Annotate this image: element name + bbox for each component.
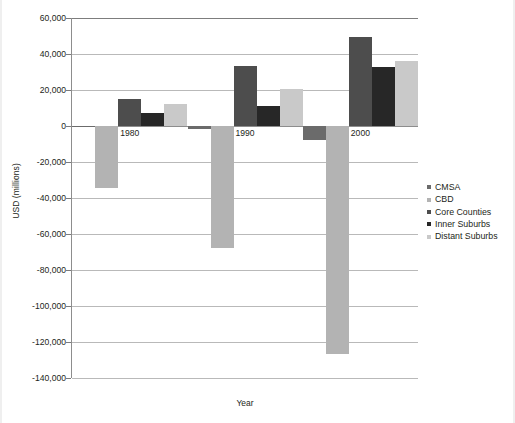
bar <box>188 126 211 129</box>
y-axis-tick-label: -100,000 <box>6 302 66 311</box>
gridline <box>72 270 418 271</box>
y-axis-tick-mark <box>66 378 71 379</box>
y-axis-tick-label: -120,000 <box>6 338 66 347</box>
bar <box>95 126 118 188</box>
bar <box>349 37 372 126</box>
bar-chart: USD (millions) 60,00040,00020,0000-20,00… <box>0 0 515 423</box>
bar <box>72 126 95 127</box>
bar <box>164 104 187 126</box>
y-axis-tick-label: 40,000 <box>6 50 66 59</box>
legend: CMSACBDCore CountiesInner SuburbsDistant… <box>427 181 513 243</box>
x-axis-category-label: 2000 <box>351 129 370 138</box>
y-axis-tick-label: -20,000 <box>6 158 66 167</box>
legend-swatch-icon <box>427 235 431 239</box>
legend-item[interactable]: Distant Suburbs <box>427 231 513 243</box>
gridline <box>72 306 418 307</box>
legend-item[interactable]: Inner Suburbs <box>427 218 513 230</box>
bar <box>395 61 418 126</box>
bar <box>372 67 395 126</box>
x-axis-title: Year <box>72 398 418 408</box>
legend-item-label: Core Counties <box>435 208 491 217</box>
legend-swatch-icon <box>427 198 431 202</box>
legend-swatch-icon <box>427 222 431 226</box>
gridline <box>72 342 418 343</box>
y-axis-tick-labels: 60,00040,00020,0000-20,000-40,000-60,000… <box>0 0 66 423</box>
y-axis-tick-label: 20,000 <box>6 86 66 95</box>
bar <box>257 106 280 126</box>
bar <box>141 113 164 126</box>
gridline <box>72 126 418 127</box>
legend-swatch-icon <box>427 210 431 214</box>
y-axis-tick-label: -60,000 <box>6 230 66 239</box>
legend-item-label: Distant Suburbs <box>435 232 498 241</box>
legend-item[interactable]: CMSA <box>427 181 513 193</box>
bar <box>234 66 257 126</box>
legend-item-label: Inner Suburbs <box>435 220 490 229</box>
x-axis-category-label: 1980 <box>120 129 139 138</box>
gridline <box>72 234 418 235</box>
legend-item[interactable]: Core Counties <box>427 206 513 218</box>
gridline <box>72 162 418 163</box>
legend-item-label: CBD <box>435 195 454 204</box>
y-axis-tick-label: -140,000 <box>6 374 66 383</box>
legend-swatch-icon <box>427 185 431 189</box>
bar <box>303 126 326 140</box>
y-axis-tick-label: 0 <box>6 122 66 131</box>
y-axis-tick-label: -80,000 <box>6 266 66 275</box>
gridline <box>72 198 418 199</box>
bar <box>326 126 349 354</box>
y-axis-tick-label: -40,000 <box>6 194 66 203</box>
bar <box>118 99 141 126</box>
plot-area: 198019902000 <box>72 18 418 378</box>
bar <box>211 126 234 248</box>
bar <box>280 89 303 126</box>
x-axis-category-label: 1990 <box>236 129 255 138</box>
legend-item-label: CMSA <box>435 183 460 192</box>
gridline <box>72 378 418 379</box>
y-axis-tick-label: 60,000 <box>6 14 66 23</box>
legend-item[interactable]: CBD <box>427 193 513 205</box>
gridline <box>72 18 418 19</box>
